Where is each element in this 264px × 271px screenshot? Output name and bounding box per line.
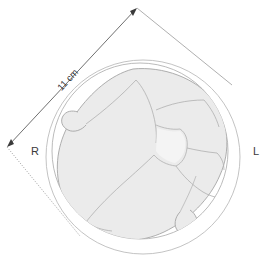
figure-canvas: 11 cm R L	[0, 0, 264, 271]
orientation-label-right: R	[31, 145, 39, 157]
dimension-label: 11 cm	[55, 67, 80, 93]
anatomical-figure: 11 cm R L	[0, 0, 264, 271]
orientation-label-left: L	[253, 145, 259, 157]
